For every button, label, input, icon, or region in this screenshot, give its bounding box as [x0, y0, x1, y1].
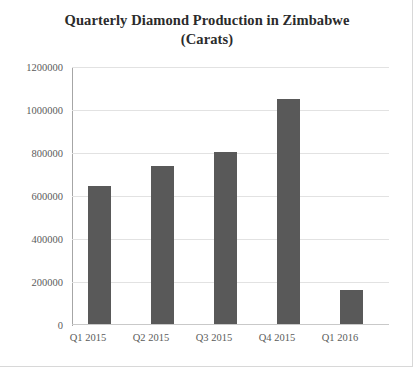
- y-axis-tick-200000: 200000: [0, 277, 63, 288]
- gridline-baseline-0: [72, 324, 389, 325]
- bar-q1-2016: [340, 290, 363, 324]
- y-axis-tick-1000000: 1000000: [0, 105, 63, 116]
- bar-q3-2015: [214, 152, 237, 324]
- bar-q4-2015: [277, 99, 300, 324]
- chart-title: Quarterly Diamond Production in Zimbabwe…: [26, 11, 388, 49]
- y-axis-tick-600000: 600000: [0, 191, 63, 202]
- bar-q2-2015: [151, 166, 174, 324]
- chart-title-line-2: (Carats): [26, 30, 388, 49]
- y-axis-tick-400000: 400000: [0, 234, 63, 245]
- plot-area: [72, 67, 389, 325]
- bar-q1-2015: [88, 186, 111, 324]
- gridline-1000000: [72, 110, 389, 111]
- y-axis-tick-800000: 800000: [0, 148, 63, 159]
- y-axis-tick-0: 0: [0, 320, 63, 331]
- bar-chart-figure: Quarterly Diamond Production in Zimbabwe…: [0, 0, 413, 367]
- y-axis-tick-1200000: 1200000: [0, 62, 63, 73]
- gridline-1200000: [72, 67, 389, 68]
- chart-title-line-1: Quarterly Diamond Production in Zimbabwe: [65, 12, 350, 28]
- x-axis-tick-q1-2016: Q1 2016: [300, 332, 380, 343]
